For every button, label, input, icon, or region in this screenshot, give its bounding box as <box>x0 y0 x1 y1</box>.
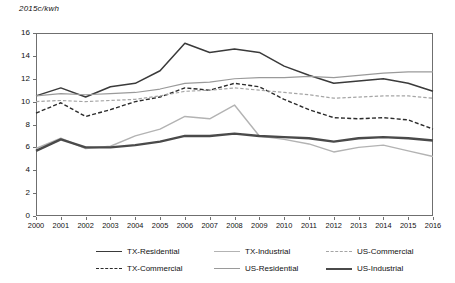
series-line-tx-industrial <box>36 105 433 156</box>
legend-swatch <box>326 268 352 270</box>
legend-item[interactable]: US-Commercial <box>326 247 446 256</box>
legend-item[interactable]: TX-Commercial <box>96 264 214 273</box>
series-line-tx-commercial <box>36 83 433 129</box>
legend-label: US-Residential <box>245 264 298 273</box>
legend-item[interactable]: TX-Residential <box>96 247 214 256</box>
legend-label: TX-Industrial <box>245 247 290 256</box>
legend-swatch <box>96 268 122 269</box>
legend-item[interactable]: US-Industrial <box>326 264 446 273</box>
legend-item[interactable]: US-Residential <box>214 264 326 273</box>
series-line-us-industrial <box>36 134 433 151</box>
legend-label: TX-Residential <box>127 247 179 256</box>
series-line-tx-residential <box>36 43 433 97</box>
legend-swatch <box>326 251 352 252</box>
legend-swatch <box>214 251 240 252</box>
series-layer <box>0 0 455 283</box>
legend-label: US-Industrial <box>357 264 403 273</box>
legend-item[interactable]: TX-Industrial <box>214 247 326 256</box>
legend-swatch <box>214 268 240 269</box>
legend-label: TX-Commercial <box>127 264 183 273</box>
legend-label: US-Commercial <box>357 247 413 256</box>
legend-swatch <box>96 251 122 252</box>
electricity-price-line-chart: 2015c/kwh 0246810121416 2000200120022003… <box>0 0 455 283</box>
chart-legend: TX-ResidentialTX-IndustrialUS-Commercial… <box>96 243 446 277</box>
